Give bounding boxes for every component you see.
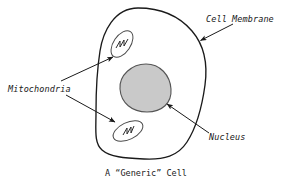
- arrow-to-cell-membrane: [201, 24, 234, 41]
- nucleus-shape: [120, 64, 171, 112]
- label-nucleus: Nucleus: [209, 132, 246, 142]
- label-cell-membrane: Cell Membrane: [206, 14, 274, 24]
- diagram-canvas: [0, 0, 292, 189]
- cell-diagram-figure: Cell Membrane Mitochondria Nucleus A “Ge…: [0, 0, 292, 189]
- label-mitochondria: Mitochondria: [8, 84, 71, 94]
- figure-caption: A “Generic” Cell: [0, 168, 292, 178]
